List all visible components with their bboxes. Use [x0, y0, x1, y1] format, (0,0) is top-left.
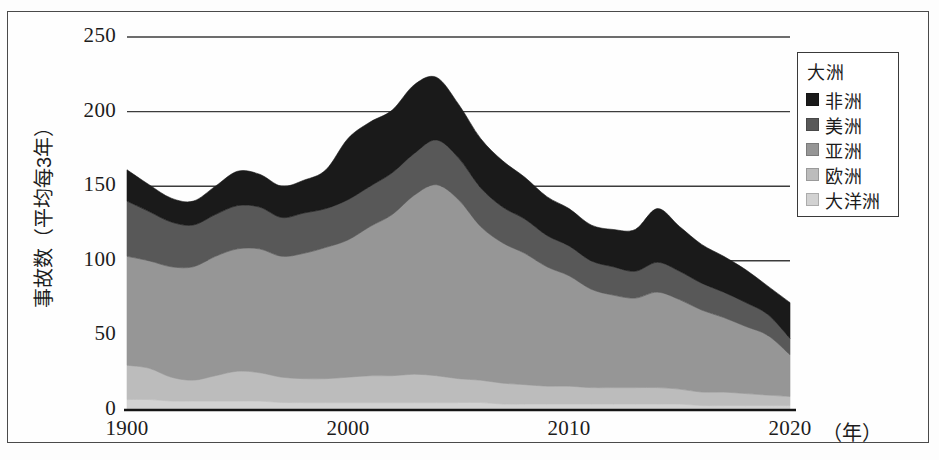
legend-item-label: 欧洲 — [825, 162, 862, 188]
area-series-group — [127, 76, 790, 410]
legend-item-label: 大洋洲 — [825, 187, 881, 213]
legend-item-2[interactable]: 亚洲 — [806, 137, 892, 162]
legend-item-label: 美洲 — [825, 112, 862, 138]
legend-item-label: 非洲 — [825, 87, 862, 113]
x-tick-2000: 2000 — [303, 416, 393, 441]
x-axis-unit-label: （年） — [822, 417, 882, 446]
legend-item-0[interactable]: 非洲 — [806, 87, 892, 112]
x-tick-2010: 2010 — [524, 416, 614, 441]
legend-swatch-icon — [806, 93, 819, 106]
legend-swatch-icon — [806, 143, 819, 156]
legend-items: 非洲美洲亚洲欧洲大洋洲 — [806, 87, 892, 212]
x-tick-1900: 1900 — [82, 416, 172, 441]
legend-item-1[interactable]: 美洲 — [806, 112, 892, 137]
figure-root: 050100150200250 1900200020102020 事故数（平均每… — [0, 0, 939, 460]
legend-item-label: 亚洲 — [825, 137, 862, 163]
legend-item-4[interactable]: 大洋洲 — [806, 187, 892, 212]
legend-swatch-icon — [806, 193, 819, 206]
y-tick-250: 250 — [40, 23, 116, 48]
legend-swatch-icon — [806, 168, 819, 181]
legend-title: 大洲 — [807, 58, 892, 84]
y-axis-label: 事故数（平均每3年） — [28, 83, 57, 343]
legend-box: 大洲 非洲美洲亚洲欧洲大洋洲 — [797, 52, 899, 217]
legend-swatch-icon — [806, 118, 819, 131]
legend-item-3[interactable]: 欧洲 — [806, 162, 892, 187]
